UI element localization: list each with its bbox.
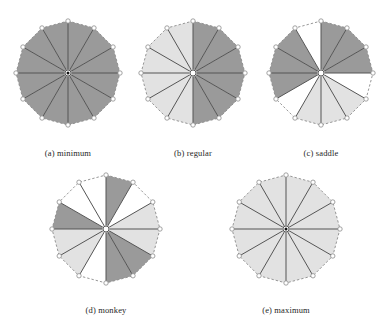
vertex-marker (236, 45, 240, 49)
vertex-marker (243, 71, 247, 75)
vertex-marker (165, 116, 169, 120)
vertex-marker (57, 200, 61, 204)
vertex-marker (345, 116, 349, 120)
vertex-marker (331, 200, 335, 204)
vertex-marker (217, 26, 221, 30)
vertex-marker (371, 71, 375, 75)
vertex-marker (311, 274, 315, 278)
wheel-svg-maximum (224, 169, 348, 289)
vertex-marker (364, 45, 368, 49)
vertex-marker (311, 180, 315, 184)
vertex-marker (274, 97, 278, 101)
vertex-marker (57, 254, 61, 258)
vertex-marker (257, 274, 261, 278)
vertex-marker (118, 71, 122, 75)
vertex-marker (139, 71, 143, 75)
hub-ring (103, 226, 109, 232)
vertex-marker (92, 116, 96, 120)
caption-saddle: (c) saddle (304, 149, 339, 158)
vertex-marker (319, 123, 323, 127)
vertex-marker (21, 97, 25, 101)
vertex-marker (284, 281, 288, 285)
vertex-marker (40, 116, 44, 120)
vertex-marker (230, 227, 234, 231)
vertex-marker (293, 116, 297, 120)
vertex-marker (165, 26, 169, 30)
vertex-marker (146, 45, 150, 49)
wheel-maximum (224, 169, 348, 289)
vertex-marker (77, 274, 81, 278)
vertex-marker (111, 97, 115, 101)
vertex-marker (151, 254, 155, 258)
vertex-marker (191, 19, 195, 23)
caption-monkey: (d) monkey (86, 306, 127, 315)
vertex-marker (146, 97, 150, 101)
vertex-marker (21, 45, 25, 49)
vertex-marker (66, 19, 70, 23)
vertex-marker (237, 200, 241, 204)
vertex-marker (257, 180, 261, 184)
vertex-marker (111, 45, 115, 49)
vertex-marker (66, 123, 70, 127)
hub-center-dot (285, 228, 288, 231)
vertex-marker (319, 19, 323, 23)
hub-ring (190, 70, 196, 76)
caption-maximum: (e) maximum (262, 306, 310, 315)
vertex-marker (104, 173, 108, 177)
panel-maximum: (e) maximum (222, 169, 350, 315)
wheel-minimum (8, 14, 128, 132)
wheel-svg-saddle (261, 14, 381, 132)
caption-regular: (b) regular (174, 149, 212, 158)
vertex-marker (131, 180, 135, 184)
panel-regular: (b) regular (133, 14, 253, 158)
panel-minimum: (a) minimum (8, 14, 128, 158)
vertex-marker (284, 173, 288, 177)
wheel-svg-monkey (44, 169, 168, 289)
hub-center-dot (67, 72, 70, 75)
vertex-marker (293, 26, 297, 30)
vertex-marker (50, 227, 54, 231)
vertex-marker (364, 97, 368, 101)
vertex-marker (77, 180, 81, 184)
caption-minimum: (a) minimum (45, 149, 91, 158)
vertex-marker (345, 26, 349, 30)
panel-saddle: (c) saddle (258, 14, 384, 158)
hub-ring (318, 70, 324, 76)
vertex-marker (217, 116, 221, 120)
panel-monkey: (d) monkey (44, 169, 168, 315)
vertex-marker (158, 227, 162, 231)
wheel-monkey (44, 169, 168, 289)
vertex-marker (92, 26, 96, 30)
vertex-marker (236, 97, 240, 101)
wheel-saddle (261, 14, 381, 132)
wheel-svg-regular (133, 14, 253, 132)
vertex-marker (104, 281, 108, 285)
vertex-marker (131, 274, 135, 278)
vertex-marker (14, 71, 18, 75)
wheel-svg-minimum (8, 14, 128, 132)
wheel-regular (133, 14, 253, 132)
vertex-marker (338, 227, 342, 231)
vertex-marker (331, 254, 335, 258)
vertex-marker (40, 26, 44, 30)
vertex-marker (274, 45, 278, 49)
vertex-marker (191, 123, 195, 127)
vertex-marker (267, 71, 271, 75)
vertex-marker (237, 254, 241, 258)
vertex-marker (151, 200, 155, 204)
